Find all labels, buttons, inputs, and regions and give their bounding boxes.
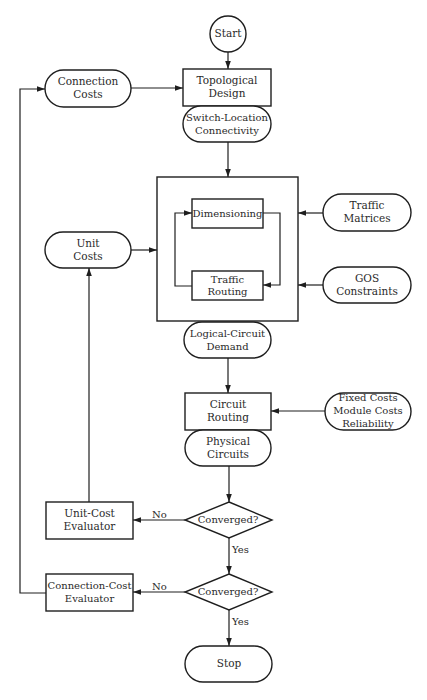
start-node: Start [210, 16, 246, 52]
svg-text:Physical: Physical [206, 435, 251, 447]
unit-cost-evaluator-node: Unit-Cost Evaluator [46, 502, 133, 539]
yes-label-1: Yes [231, 544, 249, 555]
svg-text:Routing: Routing [207, 286, 248, 297]
logical-circuit-demand-node: Logical-Circuit Demand [184, 322, 271, 358]
svg-text:Evaluator: Evaluator [65, 593, 115, 604]
connection-costs-node: Connection Costs [45, 70, 131, 107]
svg-text:Reliability: Reliability [342, 418, 394, 429]
svg-text:Matrices: Matrices [343, 212, 390, 224]
svg-text:Unit: Unit [76, 237, 100, 249]
arrow-connection-evaluator-to-connection-costs [20, 89, 46, 593]
svg-text:Circuits: Circuits [207, 448, 249, 460]
svg-text:Topological: Topological [197, 74, 258, 86]
topological-design-node: Topological Design [183, 69, 271, 106]
network-design-flowchart: Start Connection Costs Topological Desig… [0, 0, 427, 700]
physical-circuits-node: Physical Circuits [185, 430, 271, 466]
connection-cost-evaluator-node: Connection-Cost Evaluator [46, 574, 133, 611]
svg-text:GOS: GOS [355, 272, 379, 284]
svg-text:Evaluator: Evaluator [64, 520, 117, 532]
svg-text:Routing: Routing [207, 411, 249, 423]
converged-decision-2: Converged? [185, 574, 272, 610]
fixed-module-reliability-node: Fixed Costs Module Costs Reliability [325, 392, 411, 431]
arrow-dimensioning-to-routing [263, 213, 280, 285]
no-label-1: No [152, 509, 167, 520]
svg-text:Circuit: Circuit [210, 398, 247, 410]
svg-text:Traffic: Traffic [211, 274, 245, 285]
stop-node: Stop [185, 646, 272, 682]
connectors [20, 52, 325, 646]
svg-text:Demand: Demand [206, 341, 249, 352]
svg-text:Unit-Cost: Unit-Cost [64, 507, 115, 519]
svg-text:Module Costs: Module Costs [333, 405, 402, 416]
svg-text:Design: Design [209, 87, 246, 99]
svg-text:Connection-Cost: Connection-Cost [48, 580, 132, 591]
svg-text:Constraints: Constraints [336, 285, 398, 297]
svg-text:Logical-Circuit: Logical-Circuit [190, 328, 265, 339]
dimensioning-node: Dimensioning [192, 199, 263, 228]
switch-location-connectivity-node: Switch-Location Connectivity [183, 106, 271, 142]
unit-costs-node: Unit Costs [45, 232, 131, 268]
traffic-matrices-node: Traffic Matrices [323, 194, 411, 231]
traffic-routing-node: Traffic Routing [192, 271, 263, 300]
arrow-routing-to-dimensioning [175, 213, 192, 286]
svg-text:Costs: Costs [73, 88, 102, 100]
stop-label: Stop [217, 657, 242, 669]
svg-text:Connectivity: Connectivity [195, 125, 259, 136]
svg-text:Fixed Costs: Fixed Costs [338, 392, 397, 403]
svg-text:Traffic: Traffic [350, 199, 385, 211]
svg-text:Connection: Connection [58, 75, 119, 87]
svg-text:Costs: Costs [73, 250, 102, 262]
svg-text:Dimensioning: Dimensioning [193, 208, 263, 219]
start-label: Start [215, 27, 243, 39]
converged-decision-1: Converged? [185, 502, 272, 538]
gos-constraints-node: GOS Constraints [323, 267, 411, 303]
no-label-2: No [152, 581, 167, 592]
svg-text:Switch-Location: Switch-Location [186, 112, 269, 123]
circuit-routing-node: Circuit Routing [185, 393, 271, 430]
yes-label-2: Yes [231, 616, 249, 627]
svg-text:Converged?: Converged? [198, 586, 259, 597]
svg-text:Converged?: Converged? [198, 514, 259, 525]
